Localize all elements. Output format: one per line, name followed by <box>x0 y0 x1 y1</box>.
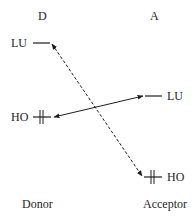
donor-ho-level <box>33 110 51 124</box>
orbital-diagram: D A LU HO LU HO Donor Acceptor <box>0 0 193 223</box>
dashed-interaction-arrow <box>52 44 142 176</box>
orbital-lines <box>0 0 193 223</box>
acceptor-ho-level <box>144 170 162 184</box>
solid-interaction-arrow <box>54 96 143 117</box>
